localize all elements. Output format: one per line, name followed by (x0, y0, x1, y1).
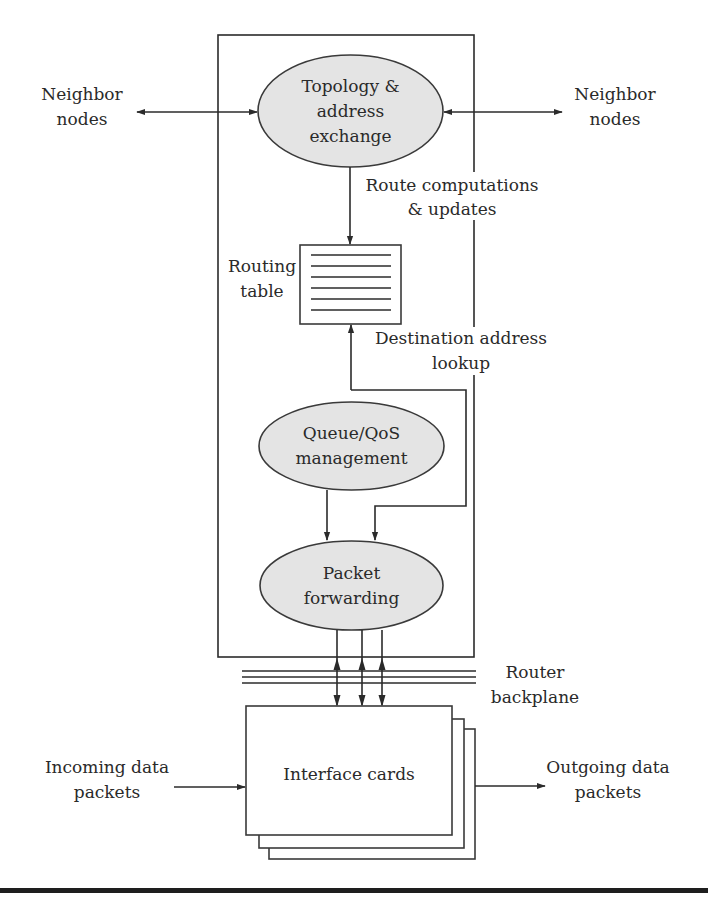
interface-cards-label: Interface cards (283, 764, 414, 784)
neighbor-left-label-2: nodes (57, 109, 108, 129)
neighbor-left-label-1: Neighbor (41, 84, 123, 104)
packet-forwarding-node: Packet forwarding (260, 541, 443, 630)
route-computations-label-2: & updates (407, 199, 496, 219)
backplane-label-2: backplane (491, 687, 579, 707)
destination-lookup-label-1: Destination address (375, 328, 547, 348)
queue-qos-node: Queue/QoS management (259, 402, 444, 490)
incoming-label-1: Incoming data (45, 757, 169, 777)
neighbor-right-label-1: Neighbor (574, 84, 656, 104)
topology-address-exchange-node: Topology & address exchange (258, 55, 443, 167)
topology-label-3: exchange (309, 126, 391, 146)
outgoing-label-2: packets (575, 782, 641, 802)
topology-label-1: Topology & (301, 76, 399, 96)
routing-table-label-1: Routing (228, 256, 296, 276)
queue-label-1: Queue/QoS (303, 423, 401, 443)
forwarding-label-1: Packet (323, 563, 381, 583)
incoming-label-2: packets (74, 782, 140, 802)
bottom-rule (0, 888, 708, 893)
routing-table (300, 245, 401, 324)
queue-label-2: management (295, 448, 407, 468)
backplane-label-1: Router (505, 662, 565, 682)
route-computations-label-1: Route computations (365, 175, 538, 195)
routing-table-label-2: table (240, 281, 283, 301)
neighbor-right-label-2: nodes (590, 109, 641, 129)
forwarding-label-2: forwarding (304, 588, 400, 608)
interface-cards-stack: Interface cards (246, 706, 475, 859)
router-architecture-diagram: Topology & address exchange Route comput… (0, 0, 708, 907)
destination-lookup-label-2: lookup (432, 353, 490, 373)
topology-label-2: address (317, 101, 385, 121)
outgoing-label-1: Outgoing data (546, 757, 670, 777)
router-backplane (242, 671, 476, 683)
